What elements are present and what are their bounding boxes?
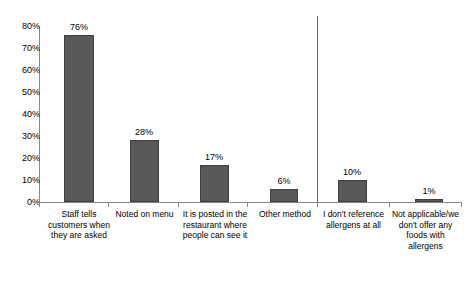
bar-staff-tells-customers <box>64 35 94 202</box>
y-tick-60: 60% <box>0 66 40 75</box>
y-tick-20: 20% <box>0 154 40 163</box>
y-tick-mark-10 <box>35 180 40 181</box>
y-tick-mark-40 <box>35 114 40 115</box>
y-tick-mark-20 <box>35 158 40 159</box>
group-divider-line <box>317 16 318 203</box>
bar-not-applicable <box>415 199 443 202</box>
x-tick-mark-3 <box>247 203 248 207</box>
y-tick-mark-80 <box>35 26 40 27</box>
bar-value-posted-in-restaurant: 17% <box>189 152 239 162</box>
y-tick-mark-60 <box>35 70 40 71</box>
bar-value-dont-reference-allergens: 10% <box>327 167 377 177</box>
category-label-dont-reference-allergens: I don't reference allergens at all <box>318 209 389 230</box>
x-tick-mark-6 <box>461 203 462 207</box>
bar-value-staff-tells-customers: 76% <box>54 22 104 32</box>
y-tick-10: 10% <box>0 176 40 185</box>
category-label-not-applicable: Not applicable/we don't offer any foods … <box>390 209 461 251</box>
x-tick-mark-4 <box>317 203 318 207</box>
x-axis-line <box>39 202 462 203</box>
y-tick-80: 80% <box>0 22 40 31</box>
bar-dont-reference-allergens <box>338 180 367 202</box>
x-tick-mark-0 <box>39 203 40 207</box>
y-tick-mark-50 <box>35 92 40 93</box>
bar-posted-in-restaurant <box>200 165 229 202</box>
bar-other-method <box>270 189 298 202</box>
y-tick-40: 40% <box>0 110 40 119</box>
x-tick-mark-2 <box>178 203 179 207</box>
y-tick-70: 70% <box>0 44 40 53</box>
y-tick-30: 30% <box>0 132 40 141</box>
category-label-other-method: Other method <box>249 209 321 220</box>
plot-area: 0% 10% 20% 30% 40% 50% 60% 70% <box>0 0 472 284</box>
bar-value-noted-on-menu: 28% <box>119 127 169 137</box>
y-tick-mark-70 <box>35 48 40 49</box>
bar-value-not-applicable: 1% <box>404 186 454 196</box>
y-tick-0: 0% <box>0 198 40 207</box>
category-label-noted-on-menu: Noted on menu <box>108 209 181 220</box>
bar-noted-on-menu <box>130 140 159 202</box>
category-label-posted-in-restaurant: It is posted in the restaurant where peo… <box>179 209 251 241</box>
x-tick-mark-1 <box>108 203 109 207</box>
y-tick-50: 50% <box>0 88 40 97</box>
y-tick-mark-30 <box>35 136 40 137</box>
x-tick-mark-5 <box>389 203 390 207</box>
bar-chart: 0% 10% 20% 30% 40% 50% 60% 70% <box>0 0 472 284</box>
category-label-staff-tells-customers: Staff tells customers when they are aske… <box>41 209 117 241</box>
bar-value-other-method: 6% <box>259 176 309 186</box>
